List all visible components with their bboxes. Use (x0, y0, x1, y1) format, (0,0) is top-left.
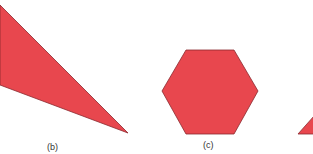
triangle-b (0, 5, 128, 133)
label-b: (b) (47, 142, 58, 152)
hexagon-c (162, 50, 258, 134)
label-c: (c) (203, 140, 214, 150)
triangle-partial-d (298, 116, 313, 134)
shapes-figure (0, 0, 313, 154)
